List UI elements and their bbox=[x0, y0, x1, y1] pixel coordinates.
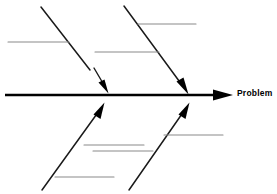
bone-top-left-line bbox=[41, 7, 90, 70]
bone-bottom-left-group bbox=[42, 103, 144, 191]
spine-arrowhead-icon bbox=[213, 90, 233, 101]
fishbone-canvas bbox=[0, 0, 277, 194]
spine-group bbox=[5, 90, 233, 101]
bone-top-left-arrowhead-icon bbox=[99, 80, 109, 94]
bone-top-right-line bbox=[124, 6, 182, 85]
bone-bottom-left-line bbox=[42, 111, 99, 190]
problem-label: Problem bbox=[237, 88, 272, 98]
bone-top-right-group bbox=[95, 6, 196, 95]
fishbone-diagram: Problem bbox=[0, 0, 277, 194]
bone-top-left-group bbox=[8, 7, 109, 94]
